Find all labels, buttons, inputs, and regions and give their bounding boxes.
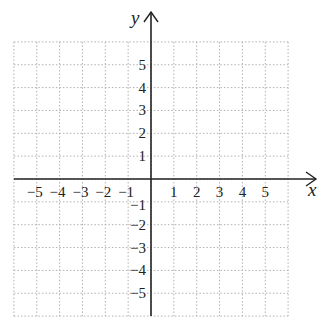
y-tick-label: 2 xyxy=(139,125,147,141)
x-tick-label: 3 xyxy=(216,184,224,200)
y-tick-label: −2 xyxy=(130,217,146,233)
y-tick-label: 5 xyxy=(139,57,147,73)
y-tick-label: 1 xyxy=(139,148,147,164)
y-tick-label: −5 xyxy=(130,285,146,301)
x-tick-label: 2 xyxy=(193,184,201,200)
y-tick-label: 4 xyxy=(139,80,147,96)
y-tick-label: 3 xyxy=(139,102,147,118)
x-axis-label: x xyxy=(307,179,317,200)
y-tick-label: −1 xyxy=(130,197,146,213)
x-tick-label: −2 xyxy=(95,184,111,200)
x-tick-label: −3 xyxy=(72,184,88,200)
coordinate-plane: −5−4−3−2−11234554321−1−2−3−4−5 x y xyxy=(0,0,332,329)
x-tick-label: −5 xyxy=(27,184,43,200)
x-tick-label: 4 xyxy=(239,184,247,200)
y-axis-label: y xyxy=(129,7,140,28)
y-tick-label: −3 xyxy=(130,240,146,256)
y-tick-label: −4 xyxy=(130,262,146,278)
x-tick-label: −4 xyxy=(50,184,66,200)
x-tick-label: 1 xyxy=(170,184,178,200)
x-tick-label: 5 xyxy=(262,184,270,200)
